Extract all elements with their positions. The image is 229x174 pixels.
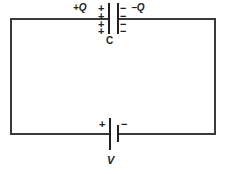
- capacitor-positive-plate: [108, 3, 110, 34]
- negative-charge-label: −Q: [131, 3, 145, 13]
- battery-negative-terminal-label: −: [121, 119, 127, 130]
- wire-left: [10, 18, 12, 135]
- wire-bottom-left: [10, 133, 110, 135]
- wire-right: [214, 18, 216, 135]
- battery-positive-terminal-label: +: [99, 119, 105, 130]
- wire-top-right: [117, 18, 216, 20]
- positive-charge-label: +Q: [73, 3, 87, 13]
- capacitor-negative-plate: [117, 3, 119, 34]
- battery-negative-plate: [117, 125, 119, 142]
- circuit-diagram: + + + + − − − − +Q −Q C + − V: [0, 0, 229, 174]
- capacitor-label: C: [106, 36, 113, 46]
- cut-off-footer-text: [14, 168, 204, 172]
- battery-label: V: [107, 155, 114, 166]
- capacitor-minus-sign-4: −: [120, 26, 126, 37]
- wire-top-left: [10, 18, 109, 20]
- battery-positive-plate: [109, 118, 111, 150]
- capacitor-plus-sign-4: +: [98, 26, 104, 37]
- wire-bottom-right: [117, 133, 216, 135]
